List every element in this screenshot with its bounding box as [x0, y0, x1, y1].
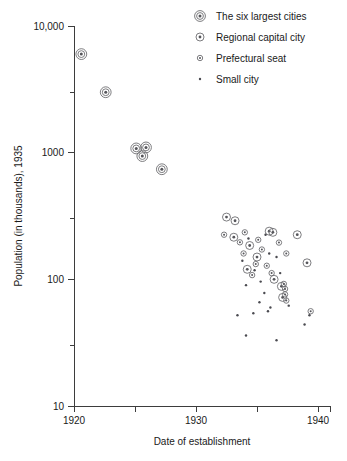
data-point: [308, 314, 310, 316]
data-point: [259, 247, 264, 252]
axis-titles: Date of establishmentPopulation (in thou…: [13, 145, 251, 447]
legend-item-label: The six largest cities: [216, 11, 307, 22]
y-tick-label: 10: [53, 401, 65, 412]
data-point: [223, 213, 231, 221]
data-point: [258, 301, 260, 303]
data-point: [308, 309, 313, 314]
data-point: [270, 275, 278, 283]
data-point: [156, 164, 167, 175]
data-point: [281, 281, 286, 286]
scatter-chart: 10100100010,000 192019301940 The six lar…: [0, 0, 347, 461]
x-tick-label: 1920: [63, 415, 86, 426]
data-point: [242, 230, 247, 235]
data-point: [141, 142, 152, 153]
legend-marker-icon: [199, 78, 201, 80]
data-point: [100, 87, 111, 98]
data-point: [230, 233, 238, 241]
legend-marker-icon: [196, 33, 204, 41]
plot-canvas: 10100100010,000 192019301940 The six lar…: [0, 0, 347, 461]
data-point: [221, 232, 226, 237]
legend-item-label: Regional capital city: [216, 32, 305, 43]
data-point: [275, 256, 277, 258]
data-point: [131, 143, 142, 154]
data-point: [245, 334, 247, 336]
x-tick-label: 1940: [307, 415, 330, 426]
y-tick-label: 10,000: [33, 21, 64, 32]
legend-marker-icon: [195, 11, 206, 22]
data-point: [275, 339, 277, 341]
data-point: [269, 306, 271, 308]
legend-item[interactable]: The six largest cities: [195, 11, 307, 22]
data-point: [256, 237, 261, 242]
series-0: [76, 49, 167, 175]
data-point: [282, 292, 287, 297]
data-point: [246, 241, 254, 249]
data-point: [264, 263, 269, 268]
x-axis: 192019301940: [63, 406, 330, 426]
data-points-layer: [76, 49, 313, 342]
data-point: [259, 280, 261, 282]
data-point: [237, 240, 242, 245]
legend-item[interactable]: Small city: [199, 74, 259, 85]
legend-item-label: Prefectural seat: [216, 53, 286, 64]
data-point: [253, 269, 255, 271]
x-tick-label: 1930: [185, 415, 208, 426]
legend-marker-icon: [197, 55, 202, 60]
data-point: [241, 251, 246, 256]
data-point: [247, 237, 249, 239]
data-point: [249, 272, 254, 277]
data-point: [264, 234, 266, 236]
data-point: [303, 323, 305, 325]
data-point: [303, 259, 311, 267]
data-point: [288, 304, 290, 306]
series-1: [223, 213, 312, 301]
data-point: [245, 284, 247, 286]
legend-item-label: Small city: [216, 74, 259, 85]
data-point: [137, 151, 148, 162]
data-point: [253, 261, 258, 266]
data-point: [293, 231, 301, 239]
data-point: [252, 312, 254, 314]
y-tick-label: 1000: [42, 147, 65, 158]
data-point: [263, 292, 265, 294]
x-axis-title: Date of establishment: [154, 436, 251, 447]
data-point: [253, 253, 261, 261]
data-point: [76, 49, 87, 60]
series-3: [236, 234, 310, 342]
data-point: [276, 240, 281, 245]
data-point: [231, 217, 239, 225]
chart-legend: The six largest citiesRegional capital c…: [195, 11, 307, 85]
y-axis: 10100100010,000: [33, 21, 74, 412]
legend-item[interactable]: Prefectural seat: [197, 53, 286, 64]
data-point: [279, 272, 281, 274]
series-2: [221, 230, 313, 314]
data-point: [241, 260, 243, 262]
data-point: [267, 310, 269, 312]
data-point: [284, 251, 289, 256]
data-point: [268, 252, 270, 254]
legend-item[interactable]: Regional capital city: [196, 32, 305, 43]
y-axis-title: Population (in thousands), 1935: [13, 145, 24, 287]
data-point: [243, 265, 251, 273]
data-point: [236, 314, 238, 316]
y-tick-label: 100: [47, 274, 64, 285]
data-point: [269, 270, 274, 275]
